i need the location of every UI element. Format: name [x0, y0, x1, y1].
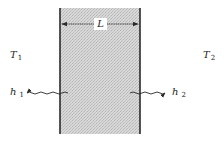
right-heat-transfer-coefficient-label: h2	[172, 87, 186, 99]
right-coefficient-subscript: 2	[181, 91, 185, 99]
right-temperature-symbol: T	[203, 49, 210, 60]
left-temperature-label: T1	[10, 50, 22, 62]
left-coefficient-subscript: 1	[19, 91, 23, 99]
wall-diagram	[0, 0, 224, 142]
left-heat-transfer-coefficient-label: h1	[10, 87, 24, 99]
left-temperature-subscript: 1	[18, 54, 22, 62]
right-temperature-label: T2	[203, 50, 215, 62]
thickness-label: L	[94, 18, 107, 30]
left-temperature-symbol: T	[10, 49, 17, 60]
right-temperature-subscript: 2	[211, 54, 215, 62]
right-coefficient-symbol: h	[172, 86, 178, 97]
left-coefficient-symbol: h	[10, 86, 16, 97]
